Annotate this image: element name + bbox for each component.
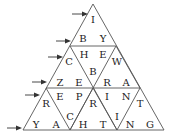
- letter-cell: A: [121, 77, 130, 88]
- letter-cell: W: [112, 56, 123, 67]
- letter-cell: E: [99, 49, 106, 60]
- arrow-icon: [56, 39, 71, 44]
- arrow-icon: [32, 80, 47, 85]
- letter-cell: P: [76, 91, 83, 102]
- letter-cell: Y: [32, 119, 40, 130]
- letter-cell: E: [56, 91, 63, 102]
- letter-cell: Y: [99, 33, 107, 44]
- letter-cell: R: [89, 98, 97, 109]
- letter-cell: T: [137, 98, 144, 109]
- letter-cell: I: [105, 91, 109, 102]
- letter-cell: G: [146, 119, 154, 130]
- triangle-puzzle: I B Y C H E W B Z E R A R E P R I N T Y …: [0, 0, 170, 137]
- letter-cell: R: [103, 77, 111, 88]
- letter-cell: A: [51, 119, 60, 130]
- arrow-icon: [7, 126, 22, 131]
- letter-cell: C: [65, 56, 73, 67]
- letter-cell: E: [75, 77, 82, 88]
- letter-cell: T: [100, 119, 107, 130]
- letter-cell: I: [91, 14, 95, 25]
- letter-cell: N: [122, 91, 131, 102]
- letter-cell: R: [42, 98, 50, 109]
- letter-cell: H: [80, 49, 89, 60]
- letter-cell: B: [89, 66, 96, 77]
- letter-cell: H: [79, 119, 88, 130]
- letter-cell: C: [66, 111, 74, 122]
- arrow-icon: [48, 55, 63, 60]
- letter-cell: B: [79, 33, 86, 44]
- letter-cell: N: [126, 119, 135, 130]
- arrow-icon: [25, 93, 40, 98]
- arrow-icon: [72, 12, 88, 17]
- letter-cell: Z: [57, 77, 64, 88]
- letter-cell: I: [115, 111, 119, 122]
